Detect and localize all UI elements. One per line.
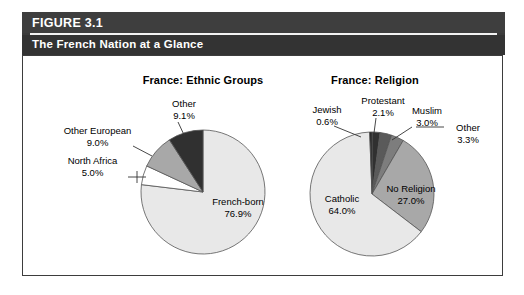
leader-line [334, 126, 361, 137]
leader-line [374, 118, 376, 133]
label-religion-muslim: Muslim 3.0% [405, 105, 449, 128]
label-religion-catholic: Catholic 64.0% [313, 193, 371, 216]
leader-line [392, 127, 412, 140]
figure-subtitle: The French Nation at a Glance [32, 37, 203, 52]
pie-chart-ethnic-groups [141, 130, 265, 254]
label-religion-jewish: Jewish 0.6% [305, 104, 349, 127]
label-ethnic-other-european: Other European 9.0% [55, 125, 140, 148]
figure-container: FIGURE 3.1 The French Nation at a Glance… [0, 0, 524, 295]
label-ethnic-french-born: French-born 76.9% [203, 196, 273, 219]
label-religion-other: Other 3.3% [447, 122, 489, 145]
label-ethnic-north-africa: North Africa 5.0% [55, 155, 130, 178]
figure-number: FIGURE 3.1 [32, 15, 103, 31]
label-religion-no-religion: No Religion 27.0% [377, 183, 445, 206]
label-ethnic-other: Other 9.1% [156, 98, 212, 121]
